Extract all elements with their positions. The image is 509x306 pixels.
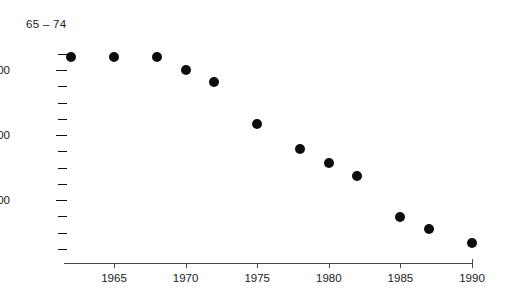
y-axis-minor-tick bbox=[58, 168, 67, 169]
x-axis-tick bbox=[472, 263, 473, 268]
data-point[interactable] bbox=[109, 52, 119, 62]
x-axis-tick-label: 1985 bbox=[388, 272, 414, 284]
plot-area bbox=[0, 0, 509, 306]
data-point[interactable] bbox=[152, 52, 162, 62]
x-axis-tick bbox=[114, 263, 115, 268]
y-axis-major-tick bbox=[56, 135, 67, 136]
y-axis-minor-tick bbox=[58, 86, 67, 87]
y-axis-minor-tick bbox=[58, 216, 67, 217]
data-point[interactable] bbox=[295, 144, 305, 154]
y-axis-tick-label: 3200 bbox=[0, 129, 14, 141]
x-axis-tick-label: 1975 bbox=[244, 272, 270, 284]
data-point[interactable] bbox=[181, 65, 191, 75]
y-axis: 160032004800 bbox=[0, 0, 72, 306]
data-point[interactable] bbox=[324, 158, 334, 168]
x-axis-tick-label: 1980 bbox=[316, 272, 342, 284]
data-point[interactable] bbox=[352, 171, 362, 181]
y-axis-major-tick bbox=[56, 200, 67, 201]
data-point[interactable] bbox=[467, 238, 477, 248]
y-axis-minor-tick bbox=[58, 119, 67, 120]
y-axis-minor-tick bbox=[58, 184, 67, 185]
chart-container: 65 – 74 160032004800 1965197019751980198… bbox=[0, 0, 509, 306]
data-point[interactable] bbox=[66, 52, 76, 62]
y-axis-minor-tick bbox=[58, 151, 67, 152]
y-axis-minor-tick bbox=[58, 249, 67, 250]
y-axis-tick-label: 1600 bbox=[0, 194, 14, 206]
x-axis-tick bbox=[257, 263, 258, 268]
x-axis-tick-label: 1965 bbox=[101, 272, 127, 284]
y-axis-tick-label: 4800 bbox=[0, 64, 14, 76]
y-axis-minor-tick bbox=[58, 103, 67, 104]
x-axis-tick bbox=[186, 263, 187, 268]
x-axis-tick bbox=[329, 263, 330, 268]
x-axis-line bbox=[64, 263, 473, 264]
y-axis-minor-tick bbox=[58, 233, 67, 234]
data-point[interactable] bbox=[252, 119, 262, 129]
y-axis-major-tick bbox=[56, 70, 67, 71]
x-axis-tick-label: 1970 bbox=[173, 272, 199, 284]
x-axis-tick-label: 1990 bbox=[459, 272, 485, 284]
data-point[interactable] bbox=[209, 77, 219, 87]
data-point[interactable] bbox=[395, 212, 405, 222]
data-point[interactable] bbox=[424, 224, 434, 234]
x-axis-tick bbox=[400, 263, 401, 268]
